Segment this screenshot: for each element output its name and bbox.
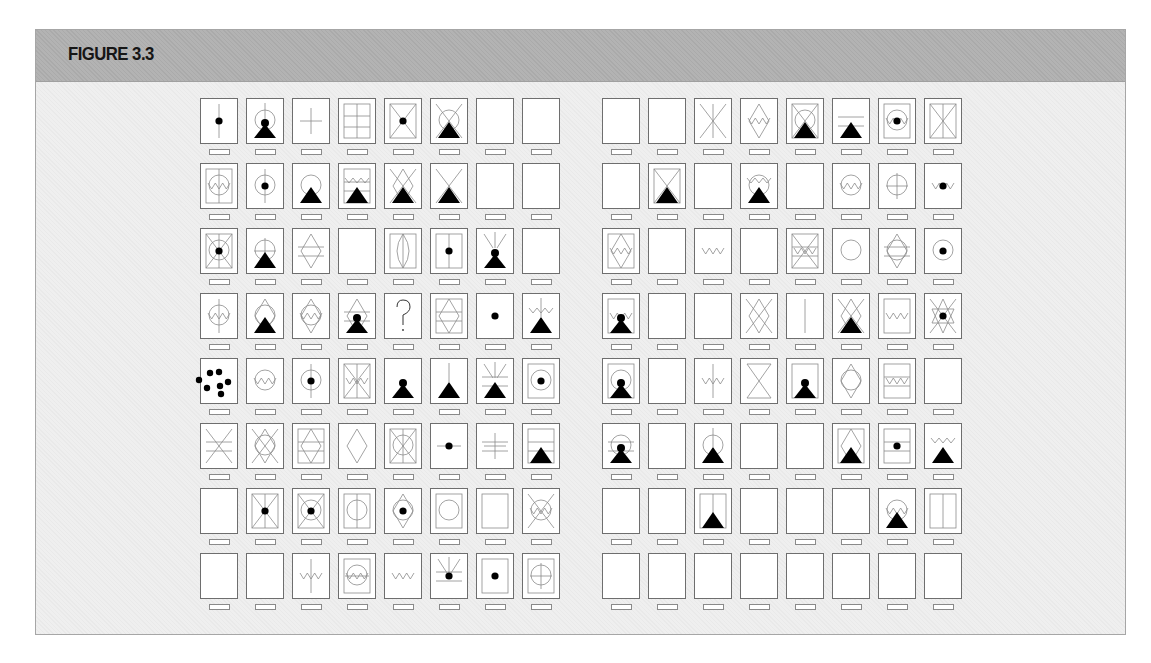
card-label-box [841,214,862,220]
symbol-glyph-icon [200,228,238,274]
right-panel-card-r2-c6 [832,163,872,223]
symbol-glyph-icon [292,98,330,144]
symbol-card [648,293,686,339]
symbol-glyph-icon [200,423,238,469]
symbol-card [694,553,732,599]
symbol-glyph-icon [694,163,732,209]
card-label-box [531,409,552,415]
symbol-glyph-icon [740,423,778,469]
symbol-card [602,228,640,274]
card-label-box [933,344,954,350]
symbol-card [292,293,330,339]
card-label-box [439,409,460,415]
symbol-glyph-icon [878,488,916,534]
symbol-glyph-icon [602,423,640,469]
card-label-box [209,279,230,285]
symbol-glyph-icon [246,423,284,469]
right-panel-card-r3-c5 [786,228,826,288]
symbol-glyph-icon [786,423,824,469]
card-label-box [749,149,770,155]
right-panel-card-r6-c5 [786,423,826,483]
left-panel-card-r7-c1 [200,488,240,548]
symbol-card [338,423,376,469]
symbol-card [200,423,238,469]
symbol-glyph-icon [832,163,870,209]
symbol-glyph-icon [924,553,962,599]
right-panel-card-r8-c5 [786,553,826,613]
right-panel-card-r4-c7 [878,293,918,353]
symbol-glyph-icon [522,293,560,339]
card-label-box [485,409,506,415]
card-label-box [611,604,632,610]
card-label-box [301,604,322,610]
left-panel-card-r5-c4 [338,358,378,418]
symbol-card [476,358,514,404]
symbol-card [384,293,422,339]
card-label-box [531,604,552,610]
symbol-card [522,423,560,469]
card-label-box [933,539,954,545]
symbol-card [832,98,870,144]
right-panel-card-r6-c4 [740,423,780,483]
left-panel-card-r6-c4 [338,423,378,483]
card-label-box [749,604,770,610]
card-label-box [703,279,724,285]
symbol-card [338,293,376,339]
left-panel-card-r4-c2 [246,293,286,353]
card-label-box [703,474,724,480]
card-label-box [749,409,770,415]
symbol-glyph-icon [648,358,686,404]
symbol-card [832,423,870,469]
symbol-glyph-icon [476,293,514,339]
right-panel-card-r8-c1 [602,553,642,613]
card-label-box [393,474,414,480]
symbol-card [200,228,238,274]
card-label-box [393,604,414,610]
symbol-card [878,163,916,209]
symbol-card [338,98,376,144]
card-label-box [887,344,908,350]
card-label-box [657,214,678,220]
card-label-box [933,214,954,220]
symbol-glyph-icon [878,98,916,144]
left-panel-card-r2-c3 [292,163,332,223]
card-label-box [795,149,816,155]
symbol-glyph-icon [292,163,330,209]
right-panel-card-r1-c4 [740,98,780,158]
symbol-card [648,98,686,144]
symbol-glyph-icon [430,228,468,274]
symbol-glyph-icon [602,163,640,209]
right-panel-card-r3-c8 [924,228,964,288]
symbol-card [200,293,238,339]
symbol-card [602,98,640,144]
symbol-glyph-icon [694,423,732,469]
left-panel-card-r4-c1 [200,293,240,353]
left-panel-card-r5-c5 [384,358,424,418]
left-panel-card-r8-c4 [338,553,378,613]
symbol-glyph-icon [924,293,962,339]
card-label-box [439,149,460,155]
left-panel-card-r6-c1 [200,423,240,483]
symbol-glyph-icon [832,488,870,534]
symbol-card [694,293,732,339]
symbol-glyph-icon [878,358,916,404]
left-panel-card-r2-c8 [522,163,562,223]
left-panel-card-r7-c6 [430,488,470,548]
symbol-card [338,488,376,534]
symbol-card [878,228,916,274]
card-label-box [703,214,724,220]
card-label-box [703,604,724,610]
right-panel-card-r7-c7 [878,488,918,548]
card-label-box [531,474,552,480]
symbol-glyph-icon [476,163,514,209]
left-panel-card-r8-c6 [430,553,470,613]
symbol-glyph-icon [924,358,962,404]
right-panel-card-r8-c3 [694,553,734,613]
left-panel-card-r5-c3 [292,358,332,418]
card-label-box [795,344,816,350]
symbol-glyph-icon [740,358,778,404]
card-label-box [485,604,506,610]
card-label-box [531,539,552,545]
card-label-box [841,604,862,610]
symbol-card [786,163,824,209]
